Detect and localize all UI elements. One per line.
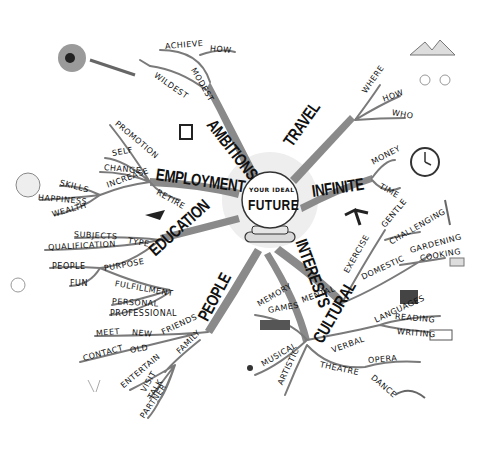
legs-icon (345, 210, 368, 225)
folder-icon (180, 125, 192, 139)
glasses-icon (88, 380, 100, 392)
sub-branch-label: NEW (132, 328, 153, 339)
smiley-icon (11, 278, 25, 292)
head-icon (16, 173, 40, 197)
eye-icon (65, 53, 75, 63)
graduation-cap-icon (145, 210, 165, 220)
sub-branch-label: PEOPLE (52, 262, 86, 271)
rocket-icon (90, 60, 135, 75)
sub-branch-label: PROFESSIONAL (110, 309, 177, 318)
music-note-icon (247, 365, 253, 371)
mountains-icon (410, 40, 455, 55)
center-subtitle: YOUR IDEAL (249, 186, 295, 193)
center-title: FUTURE (248, 196, 299, 213)
bicycle-icon (420, 75, 430, 85)
chessboard-icon (260, 320, 290, 330)
sub-branch-label: FUN (70, 279, 88, 288)
dancer-icon (395, 391, 425, 398)
mind-map: YOUR IDEAL FUTURE AMBITIONSACHIEVEHOWWIL… (0, 0, 485, 456)
sub-branch-label: HOW (210, 44, 232, 55)
cake-icon (450, 258, 464, 266)
